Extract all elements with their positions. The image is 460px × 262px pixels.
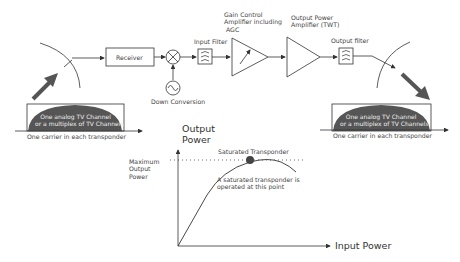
output-filter-label: Output filter [331, 37, 369, 44]
output-filter-icon [339, 48, 353, 64]
saturation-annotation: A saturated transponder is operated at t… [217, 176, 300, 191]
left-carrier-text: One analog TV Channel or a multiplex of … [35, 113, 116, 127]
receive-antenna-icon [40, 43, 80, 88]
y-axis-label: Output Power [182, 124, 215, 145]
diagram-canvas [0, 0, 460, 262]
input-filter-label: Input Filter [194, 38, 227, 45]
agc-amplifier-icon [232, 38, 268, 76]
agc-amplifier-label: Gain Control Amplifier including AGC [224, 11, 282, 33]
local-oscillator-icon [166, 81, 180, 95]
left-spectrum-caption: One carrier in each transponder [27, 133, 126, 140]
x-axis-label: Input Power [335, 241, 391, 252]
twt-amplifier-icon [287, 37, 320, 77]
uplink-arrow-icon [33, 73, 58, 99]
transfer-curve [178, 160, 296, 247]
input-filter-icon [198, 49, 212, 64]
mixer-icon [166, 50, 180, 64]
right-spectrum-caption: One carrier in each transponder [333, 132, 432, 139]
down-conversion-label: Down Conversion [151, 98, 205, 105]
twt-amplifier-label: Output Power Amplifier (TWT) [291, 14, 339, 29]
right-carrier-text: One analog TV Channel or a multiplex of … [340, 113, 422, 127]
transmit-antenna-icon [377, 42, 410, 88]
saturation-point-icon [246, 156, 254, 164]
max-output-label: Maximum Output Power [129, 158, 160, 180]
saturation-label: Saturated Transponder [218, 148, 289, 155]
receiver-label: Receiver [116, 54, 143, 61]
transfer-curve-chart [170, 150, 330, 246]
downlink-arrow-icon [402, 74, 430, 100]
